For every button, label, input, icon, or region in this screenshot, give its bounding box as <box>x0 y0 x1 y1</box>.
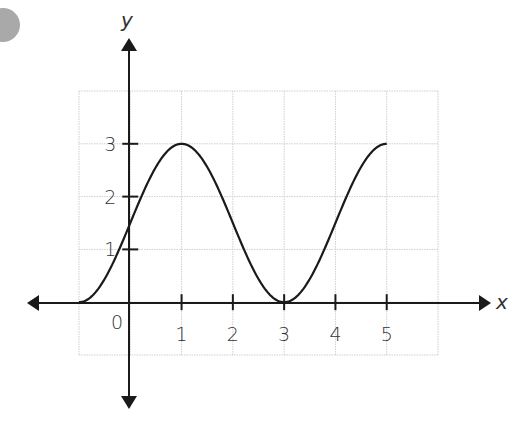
x-axis-label: x <box>495 290 508 314</box>
x-tick-label: 5 <box>381 323 393 345</box>
y-tick-label: 2 <box>104 186 116 208</box>
y-axis-up-arrow-icon <box>121 38 137 51</box>
x-tick-label: 1 <box>176 323 188 345</box>
function-graph: 12345123 x y 0 <box>0 0 530 429</box>
y-tick-label: 3 <box>104 133 116 155</box>
function-curve <box>79 144 387 302</box>
x-tick-label: 2 <box>227 323 239 345</box>
y-axis-label: y <box>120 8 134 32</box>
ticks: 12345123 <box>104 133 393 345</box>
x-axis-right-arrow-icon <box>479 295 491 311</box>
x-tick-label: 4 <box>329 323 341 345</box>
origin-label: 0 <box>111 311 123 333</box>
grid <box>79 91 438 355</box>
x-tick-label: 3 <box>278 323 290 345</box>
y-axis-down-arrow-icon <box>121 396 137 409</box>
axes <box>27 38 491 409</box>
y-tick-label: 1 <box>104 238 116 260</box>
x-axis-left-arrow-icon <box>27 295 39 311</box>
